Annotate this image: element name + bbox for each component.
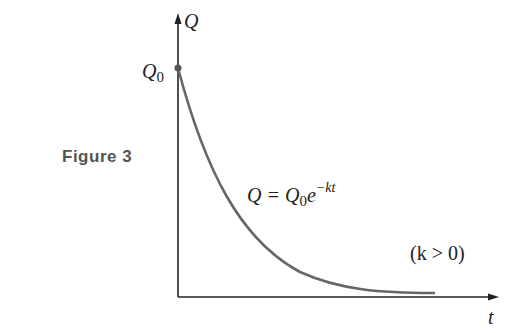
equation-label: Q = Q0e−kt — [247, 180, 336, 209]
intercept-label: Q0 — [142, 60, 164, 85]
x-axis-arrow-icon — [488, 294, 499, 301]
decay-chart: Q t Q0 Q = Q0e−kt (k > 0) — [0, 0, 518, 333]
condition-label: (k > 0) — [410, 242, 465, 265]
y-axis-label: Q — [184, 10, 199, 32]
decay-curve — [178, 68, 435, 293]
intercept-point — [175, 65, 182, 72]
y-axis-arrow-icon — [175, 13, 182, 24]
x-axis-label: t — [488, 306, 494, 328]
